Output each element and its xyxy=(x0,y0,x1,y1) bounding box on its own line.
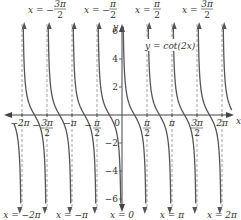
svg-text:3π: 3π xyxy=(191,118,204,128)
svg-text:2: 2 xyxy=(44,128,50,138)
svg-text:2: 2 xyxy=(194,128,200,138)
svg-text:x = −π: x = −π xyxy=(56,210,89,220)
svg-text:2π: 2π xyxy=(215,118,229,128)
y-axis-label: y xyxy=(112,22,119,32)
svg-text:−6: −6 xyxy=(105,194,119,204)
bottom-asymptote-labels: x = −2π x = −π x = 0 x = π x = 2π xyxy=(3,210,238,220)
svg-text:x =: x = xyxy=(135,5,150,15)
svg-text:x = −: x = − xyxy=(84,5,110,15)
svg-text:π: π xyxy=(143,118,151,128)
svg-text:−2π: −2π xyxy=(10,118,30,128)
svg-text:2: 2 xyxy=(144,128,150,138)
svg-text:2: 2 xyxy=(94,128,100,138)
svg-text:y = cot(2x): y = cot(2x) xyxy=(144,41,196,51)
svg-text:2: 2 xyxy=(112,82,118,92)
svg-text:π: π xyxy=(168,118,176,128)
svg-text:x = π: x = π xyxy=(160,210,185,220)
svg-text:2: 2 xyxy=(204,10,210,20)
svg-text:2: 2 xyxy=(154,10,160,20)
top-asymptote-labels: x = − 3π 2 x = − π 2 x = π 2 x = 3π 2 xyxy=(28,0,214,20)
svg-text:3π: 3π xyxy=(41,118,54,128)
svg-text:−: − xyxy=(32,120,40,130)
svg-text:x = −2π: x = −2π xyxy=(3,210,42,220)
function-label: y = cot(2x) xyxy=(143,39,196,51)
cot-2x-graph: 6 4 2 −2 −4 −6 −2π 3π 2 − −π π 2 − 0 π 2… xyxy=(0,0,241,220)
svg-text:−4: −4 xyxy=(105,166,119,176)
svg-text:x = 0: x = 0 xyxy=(110,210,134,220)
svg-text:−π: −π xyxy=(63,118,78,128)
svg-text:π: π xyxy=(153,0,161,9)
svg-text:−: − xyxy=(84,120,92,130)
svg-text:2: 2 xyxy=(110,10,116,20)
svg-text:0: 0 xyxy=(114,118,120,128)
svg-text:4: 4 xyxy=(112,54,118,64)
x-tick-labels: −2π 3π 2 − −π π 2 − 0 π 2 π 3π 2 2π xyxy=(10,118,228,138)
svg-text:2: 2 xyxy=(57,10,63,20)
svg-text:3π: 3π xyxy=(54,0,67,9)
svg-text:x = −: x = − xyxy=(28,5,54,15)
svg-text:x =: x = xyxy=(182,5,197,15)
svg-text:−2: −2 xyxy=(105,138,118,148)
svg-text:π: π xyxy=(109,0,117,9)
svg-text:3π: 3π xyxy=(201,0,214,9)
svg-text:x = 2π: x = 2π xyxy=(207,210,238,220)
x-axis-label: x xyxy=(236,116,241,126)
svg-text:π: π xyxy=(93,118,101,128)
